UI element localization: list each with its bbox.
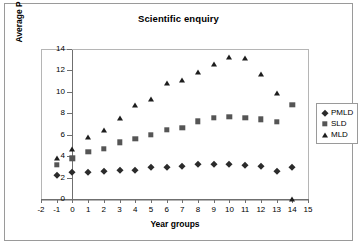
data-point-pmld — [85, 168, 91, 174]
data-point-mld — [226, 54, 232, 59]
data-point-sld — [242, 115, 247, 120]
x-tick-label: 8 — [196, 205, 200, 214]
data-point-pmld — [289, 164, 295, 170]
data-point-sld — [101, 146, 106, 151]
data-point-sld — [117, 140, 122, 145]
data-point-sld — [211, 115, 216, 120]
x-axis-line — [41, 199, 308, 200]
x-tick-label: 1 — [86, 205, 90, 214]
x-axis-title: Year groups — [41, 219, 309, 229]
data-point-sld — [227, 114, 232, 119]
x-tick-label: 11 — [241, 205, 249, 214]
data-point-mld — [148, 97, 154, 102]
legend-item-mld[interactable]: MLD — [320, 129, 353, 140]
data-point-sld — [180, 125, 185, 130]
x-tick — [277, 199, 278, 203]
data-point-pmld — [132, 166, 138, 172]
y-tick-label: 6 — [41, 130, 65, 139]
x-tick — [245, 199, 246, 203]
x-tick — [120, 199, 121, 203]
data-point-pmld — [273, 168, 279, 174]
square-icon — [320, 119, 329, 128]
y-tick-label: 14 — [41, 44, 65, 53]
data-point-pmld — [258, 163, 264, 169]
data-point-mld — [101, 127, 107, 132]
data-point-pmld — [179, 163, 185, 169]
data-point-sld — [148, 132, 153, 137]
x-tick — [261, 199, 262, 203]
x-tick-label: 5 — [149, 205, 153, 214]
legend-label: MLD — [331, 130, 348, 139]
y-tick-label: 10 — [41, 87, 65, 96]
data-point-sld — [274, 119, 279, 124]
data-point-mld — [179, 78, 185, 83]
x-tick-label: 13 — [272, 205, 281, 214]
data-point-mld — [117, 116, 123, 121]
data-point-mld — [289, 197, 295, 202]
x-tick-label: 6 — [164, 205, 168, 214]
data-point-pmld — [163, 164, 169, 170]
data-point-mld — [274, 90, 280, 95]
data-point-pmld — [116, 167, 122, 173]
x-tick-label: -1 — [53, 205, 60, 214]
y-axis-line — [72, 50, 73, 200]
data-point-mld — [242, 55, 248, 60]
data-point-mld — [164, 81, 170, 86]
x-tick-label: 15 — [304, 205, 313, 214]
data-point-sld — [70, 156, 75, 161]
data-point-pmld — [101, 168, 107, 174]
chart-title: Scientific enquiry — [5, 13, 352, 24]
data-point-sld — [54, 162, 59, 167]
data-point-mld — [211, 62, 217, 67]
legend-label: PMLD — [331, 108, 353, 117]
x-tick — [214, 199, 215, 203]
data-point-sld — [164, 127, 169, 132]
data-point-mld — [69, 146, 75, 151]
legend-item-pmld[interactable]: PMLD — [320, 107, 353, 118]
data-point-sld — [133, 136, 138, 141]
x-tick — [167, 199, 168, 203]
data-point-pmld — [211, 160, 217, 166]
x-tick-label: 14 — [288, 205, 297, 214]
data-point-pmld — [226, 160, 232, 166]
x-tick — [182, 199, 183, 203]
x-tick — [41, 199, 42, 203]
x-tick — [72, 199, 73, 203]
x-tick — [135, 199, 136, 203]
y-axis-title: Average P levels — [14, 0, 24, 64]
x-tick-label: 4 — [133, 205, 137, 214]
y-tick-label: 0 — [41, 194, 65, 203]
plot-area: 02468101214 -2-10123456789101112131415 — [41, 49, 309, 201]
x-tick-label: 7 — [180, 205, 184, 214]
data-point-pmld — [148, 164, 154, 170]
x-tick — [88, 199, 89, 203]
diamond-icon — [320, 108, 329, 117]
y-tick-label: 8 — [41, 108, 65, 117]
legend-label: SLD — [331, 119, 347, 128]
data-point-mld — [258, 71, 264, 76]
data-point-sld — [258, 116, 263, 121]
data-point-sld — [85, 149, 90, 154]
data-point-mld — [132, 102, 138, 107]
data-point-mld — [85, 134, 91, 139]
chart-figure: Scientific enquiry 02468101214 -2-101234… — [4, 3, 353, 241]
x-tick-label: 9 — [212, 205, 216, 214]
y-tick-label: 12 — [41, 65, 65, 74]
data-point-sld — [195, 119, 200, 124]
x-tick — [57, 199, 58, 203]
x-tick-label: 2 — [102, 205, 106, 214]
x-tick — [104, 199, 105, 203]
legend-item-sld[interactable]: SLD — [320, 118, 353, 129]
x-tick — [308, 199, 309, 203]
data-point-pmld — [69, 169, 75, 175]
data-point-sld — [290, 102, 295, 107]
data-point-mld — [54, 155, 60, 160]
x-tick-label: 12 — [256, 205, 265, 214]
data-point-pmld — [195, 161, 201, 167]
chart-legend: PMLDSLDMLD — [316, 103, 358, 144]
x-tick — [198, 199, 199, 203]
x-tick-label: -2 — [37, 205, 44, 214]
x-tick-label: 0 — [70, 205, 74, 214]
x-tick — [151, 199, 152, 203]
x-tick-label: 10 — [225, 205, 234, 214]
